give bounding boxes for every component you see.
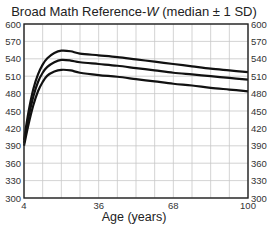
svg-text:600: 600 — [251, 19, 267, 30]
svg-text:480: 480 — [251, 88, 267, 99]
svg-text:360: 360 — [5, 158, 21, 169]
svg-text:360: 360 — [251, 158, 267, 169]
svg-text:570: 570 — [251, 36, 267, 47]
svg-text:330: 330 — [251, 175, 267, 186]
svg-text:300: 300 — [5, 193, 21, 204]
svg-text:390: 390 — [251, 140, 267, 151]
y-axis-left-ticks: 300330360390420450480510540570600 — [5, 19, 21, 204]
svg-text:390: 390 — [5, 140, 21, 151]
svg-text:600: 600 — [5, 19, 21, 30]
svg-text:570: 570 — [5, 36, 21, 47]
x-axis-label: Age (years) — [0, 210, 268, 224]
svg-text:420: 420 — [5, 123, 21, 134]
svg-text:420: 420 — [251, 123, 267, 134]
grid-lines — [24, 24, 248, 198]
svg-text:510: 510 — [5, 71, 21, 82]
svg-text:510: 510 — [251, 71, 267, 82]
svg-text:330: 330 — [5, 175, 21, 186]
svg-text:450: 450 — [5, 106, 21, 117]
svg-text:540: 540 — [251, 53, 267, 64]
y-axis-right-ticks: 300330360390420450480510540570600 — [251, 19, 267, 204]
svg-text:450: 450 — [251, 106, 267, 117]
line-chart: 300330360390420450480510540570600 300330… — [0, 0, 268, 234]
svg-text:540: 540 — [5, 53, 21, 64]
svg-text:480: 480 — [5, 88, 21, 99]
